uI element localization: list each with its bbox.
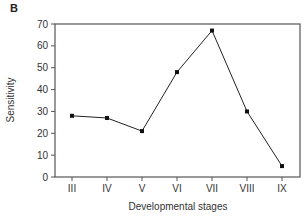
- data-point-marker: [105, 116, 109, 120]
- y-tick-label: 70: [37, 19, 49, 30]
- plot-frame: [55, 24, 300, 177]
- data-point-marker: [210, 29, 214, 33]
- y-tick-label: 0: [42, 172, 48, 183]
- x-tick-label: IX: [277, 183, 287, 194]
- x-tick-label: III: [68, 183, 76, 194]
- data-point-marker: [140, 129, 144, 133]
- data-point-marker: [70, 114, 74, 118]
- x-tick-label: VIII: [239, 183, 254, 194]
- x-axis: IIIIVVVIVIIVIIIIX: [68, 177, 287, 194]
- y-tick-label: 50: [37, 62, 49, 73]
- data-point-marker: [245, 109, 249, 113]
- series-line: [72, 31, 282, 167]
- y-tick-label: 20: [37, 128, 49, 139]
- x-axis-title: Developmental stages: [129, 201, 228, 212]
- y-tick-label: 40: [37, 84, 49, 95]
- data-series: [70, 29, 284, 169]
- plot-border: [55, 24, 300, 177]
- y-axis-title: Sensitivity: [5, 77, 16, 122]
- x-tick-label: IV: [102, 183, 112, 194]
- y-tick-label: 30: [37, 106, 49, 117]
- y-tick-label: 60: [37, 40, 49, 51]
- data-point-marker: [175, 70, 179, 74]
- y-axis: 010203040506070: [37, 19, 55, 183]
- data-point-marker: [280, 164, 284, 168]
- x-tick-label: V: [139, 183, 146, 194]
- x-tick-label: VII: [206, 183, 218, 194]
- y-tick-label: 10: [37, 150, 49, 161]
- line-chart: 010203040506070 IIIIVVVIVIIVIIIIX Sensit…: [0, 0, 308, 217]
- x-tick-label: VI: [172, 183, 181, 194]
